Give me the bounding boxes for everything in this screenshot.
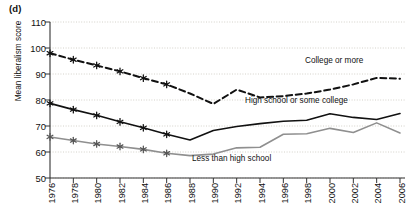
x-tick-2004: 2004 — [373, 183, 383, 203]
x-tick-2000: 2000 — [327, 183, 337, 203]
x-tick-1996: 1996 — [280, 183, 290, 203]
x-tick-1988: 1988 — [187, 183, 197, 203]
y-tick-90: 90 — [22, 69, 46, 80]
x-axis-tick-labels: 1976 1978 1980 1982 1984 1986 1988 1990 … — [0, 182, 419, 218]
x-tick-1982: 1982 — [117, 183, 127, 203]
x-tick-1976: 1976 — [47, 183, 57, 203]
x-tick-1984: 1984 — [140, 183, 150, 203]
x-tick-1986: 1986 — [163, 183, 173, 203]
x-tick-1980: 1980 — [93, 183, 103, 203]
x-tick-1978: 1978 — [70, 183, 80, 203]
annotation-high-school-or-some-college: High school or some college — [245, 96, 348, 105]
x-tick-2002: 2002 — [350, 183, 360, 203]
y-tick-110: 110 — [22, 17, 46, 28]
x-tick-1992: 1992 — [233, 183, 243, 203]
x-tick-1994: 1994 — [257, 183, 267, 203]
y-tick-100: 100 — [22, 43, 46, 54]
annotation-less-than-high-school: Less than high school — [192, 154, 271, 163]
x-tick-2006: 2006 — [397, 183, 407, 203]
data-markers — [47, 50, 169, 157]
x-tick-1990: 1990 — [210, 183, 220, 203]
chart-figure: (d) Mean liberalism score 110 100 90 80 … — [0, 0, 419, 218]
y-tick-70: 70 — [22, 121, 46, 132]
y-tick-60: 60 — [22, 147, 46, 158]
x-tick-1998: 1998 — [303, 183, 313, 203]
annotation-college-or-more: College or more — [305, 56, 363, 65]
y-tick-80: 80 — [22, 95, 46, 106]
